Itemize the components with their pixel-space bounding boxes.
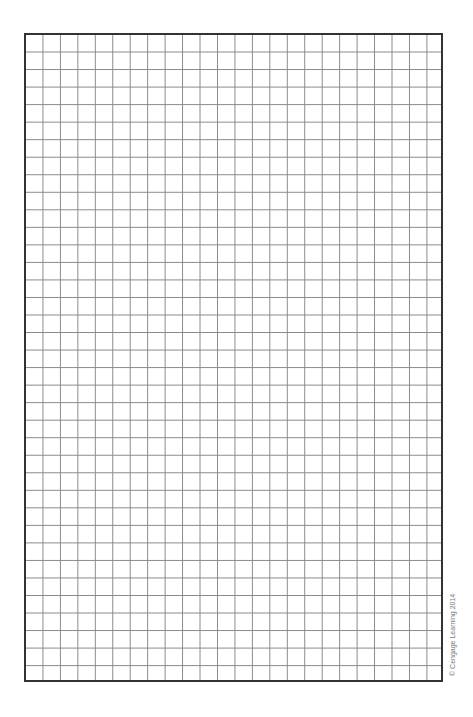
graph-paper-grid <box>24 33 443 682</box>
copyright-credit: © Cengage Learning 2014 <box>449 594 456 676</box>
